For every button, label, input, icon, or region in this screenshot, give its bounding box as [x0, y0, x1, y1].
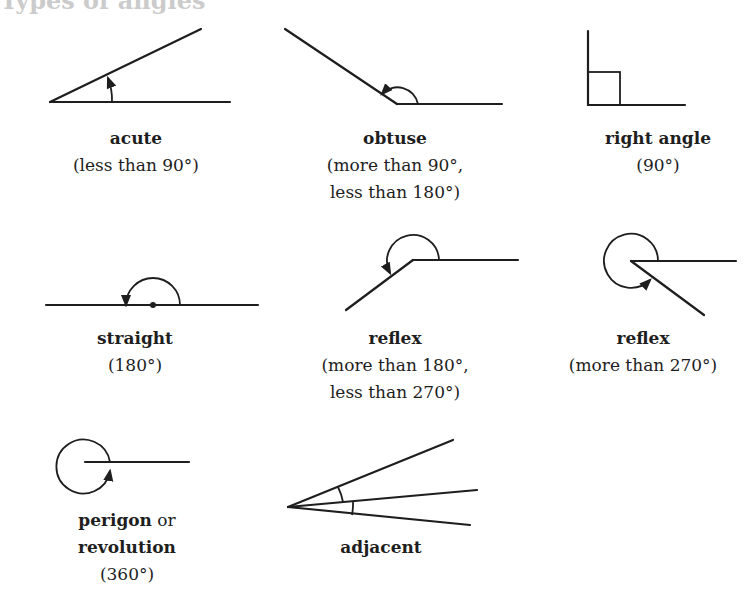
angle-figure-obtuse [285, 29, 502, 104]
ray-line [50, 29, 201, 102]
angle-arc-arrow-icon [387, 235, 439, 273]
angle-name: straight [97, 325, 173, 352]
angle-arc-arrow-icon [126, 278, 180, 305]
angle-name-alt: revolution [78, 534, 176, 561]
angle-description: (180°) [97, 352, 173, 379]
angle-description: (more than 90°, [327, 152, 463, 179]
angle-name: perigon [78, 510, 152, 530]
label-straight: straight (180°) [97, 325, 173, 379]
angle-figure-straight [46, 278, 258, 308]
ray-line [288, 490, 477, 507]
angle-description: less than 180°) [327, 179, 463, 206]
label-reflex-270: reflex (more than 270°) [569, 325, 717, 379]
angle-name: acute [73, 125, 199, 152]
ray-line [288, 507, 470, 525]
angle-name: reflex [569, 325, 717, 352]
angle-description: (less than 90°) [73, 152, 199, 179]
label-reflex-180-270: reflex (more than 180°, less than 270°) [321, 325, 468, 406]
angle-arc-arrow-icon [382, 87, 418, 104]
angle-description: (360°) [78, 561, 176, 588]
angle-name-connector: or [152, 510, 176, 530]
angle-figure-perigon [56, 440, 189, 494]
angle-arc-arrow-icon [56, 440, 110, 494]
angle-description: (more than 180°, [321, 352, 468, 379]
vertex-dot [150, 302, 156, 308]
angle-arc-arrow-icon [108, 78, 112, 102]
angle-figure-acute [50, 29, 230, 102]
angle-name: right angle [605, 125, 711, 152]
angle-figure-reflex1 [346, 235, 518, 310]
angle-types-diagram: Types of angles acute (less than 90°) ob… [0, 0, 755, 600]
label-acute: acute (less than 90°) [73, 125, 199, 179]
angle-name: reflex [321, 325, 468, 352]
angle-name: adjacent [340, 534, 421, 561]
angle-figure-reflex2 [604, 234, 736, 315]
ray-line [285, 29, 397, 104]
label-obtuse: obtuse (more than 90°, less than 180°) [327, 125, 463, 206]
ray-line [288, 440, 453, 507]
label-adjacent: adjacent [340, 534, 421, 561]
angle-description: (more than 270°) [569, 352, 717, 379]
angle-description: less than 270°) [321, 379, 468, 406]
angle-figure-adjacent [288, 440, 477, 525]
angle-name-line: perigon or [78, 507, 176, 534]
label-right-angle: right angle (90°) [605, 125, 711, 179]
angle-arc [352, 501, 353, 515]
ray-line [631, 261, 704, 315]
angle-arc [338, 487, 343, 502]
ray-line [346, 260, 413, 310]
angle-name: obtuse [327, 125, 463, 152]
right-angle-marker [588, 72, 620, 105]
angle-description: (90°) [605, 152, 711, 179]
angle-figure-right [588, 31, 685, 105]
label-perigon: perigon or revolution (360°) [78, 507, 176, 588]
